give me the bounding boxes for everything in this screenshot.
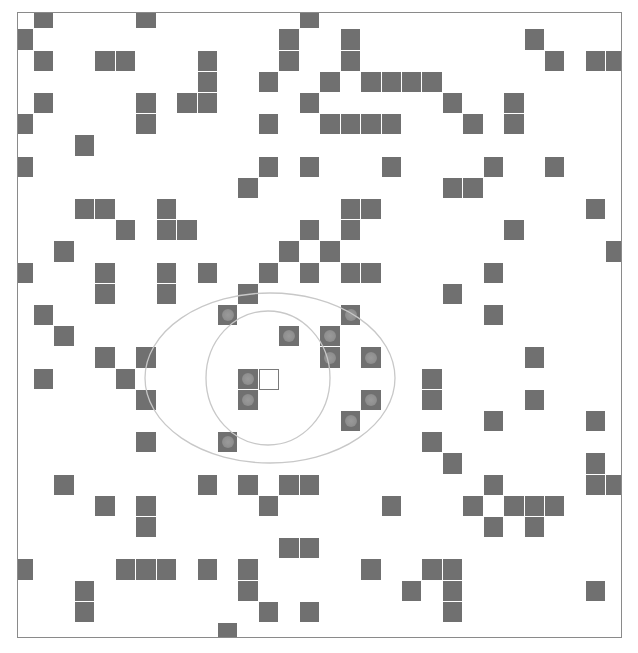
obstacle-cell [341,263,360,283]
obstacle-cell [361,559,381,580]
obstacle-cell [320,241,340,262]
obstacle-cell [136,496,156,516]
sensor-hit-dot-icon [365,394,377,406]
sensed-obstacle-cell [279,326,299,346]
obstacle-cell [382,157,401,177]
obstacle-cell [545,157,564,177]
obstacle-cell [504,114,524,134]
obstacle-cell [95,199,115,219]
obstacle-cell [463,114,483,134]
obstacle-cell [300,12,319,28]
obstacle-cell [422,432,442,452]
obstacle-cell [279,29,299,50]
sensed-obstacle-cell [218,305,237,325]
obstacle-cell [238,475,258,495]
obstacle-cell [259,72,278,92]
obstacle-cell [116,369,135,389]
sensed-obstacle-cell [341,411,360,431]
sensed-obstacle-cell [320,347,340,368]
obstacle-cell [75,602,94,622]
obstacle-cell [586,199,605,219]
sensor-hit-dot-icon [242,394,254,406]
cell-layer [17,12,622,638]
obstacle-cell [259,496,278,516]
sensed-obstacle-cell [361,347,381,368]
obstacle-cell [443,602,462,622]
obstacle-cell [198,475,217,495]
obstacle-cell [300,220,319,240]
obstacle-cell [238,581,258,601]
obstacle-cell [484,411,503,431]
sensed-obstacle-cell [341,305,360,325]
sensor-hit-dot-icon [222,309,234,321]
obstacle-cell [443,453,462,474]
obstacle-cell [361,199,381,219]
obstacle-cell [606,475,622,495]
obstacle-cell [116,220,135,240]
obstacle-cell [157,284,176,304]
obstacle-cell [341,29,360,50]
obstacle-cell [463,178,483,198]
obstacle-cell [443,581,462,601]
obstacle-cell [157,263,176,283]
obstacle-cell [136,93,156,113]
obstacle-cell [606,241,622,262]
obstacle-cell [504,220,524,240]
obstacle-cell [443,93,462,113]
obstacle-cell [198,51,217,71]
obstacle-cell [198,263,217,283]
obstacle-cell [75,581,94,601]
obstacle-cell [484,475,503,495]
obstacle-cell [382,496,401,516]
obstacle-cell [341,51,360,71]
sensed-obstacle-cell [218,432,237,452]
sensed-obstacle-cell [238,369,258,389]
sensor-hit-dot-icon [365,352,377,364]
obstacle-cell [525,347,544,368]
obstacle-cell [606,51,622,71]
obstacle-cell [34,369,53,389]
obstacle-cell [484,305,503,325]
grid-world [17,12,622,638]
obstacle-cell [136,114,156,134]
obstacle-cell [525,496,544,516]
obstacle-cell [17,157,33,177]
obstacle-cell [198,93,217,113]
obstacle-cell [422,369,442,389]
obstacle-cell [484,263,503,283]
obstacle-cell [402,72,421,92]
obstacle-cell [545,51,564,71]
obstacle-cell [586,411,605,431]
obstacle-cell [259,263,278,283]
obstacle-cell [17,29,33,50]
obstacle-cell [443,284,462,304]
obstacle-cell [218,623,237,638]
obstacle-cell [279,538,299,558]
obstacle-cell [361,72,381,92]
sensor-hit-dot-icon [345,309,357,321]
obstacle-cell [504,496,524,516]
obstacle-cell [95,263,115,283]
obstacle-cell [116,559,135,580]
obstacle-cell [177,220,197,240]
obstacle-cell [95,51,115,71]
obstacle-cell [116,51,135,71]
obstacle-cell [136,432,156,452]
obstacle-cell [136,390,156,410]
obstacle-cell [422,390,442,410]
obstacle-cell [279,475,299,495]
agent-cell [259,369,279,390]
obstacle-cell [361,114,381,134]
obstacle-cell [361,263,381,283]
obstacle-cell [177,93,197,113]
obstacle-cell [259,114,278,134]
obstacle-cell [34,305,53,325]
obstacle-cell [17,114,33,134]
obstacle-cell [34,51,53,71]
obstacle-cell [136,347,156,368]
obstacle-cell [279,241,299,262]
obstacle-cell [157,559,176,580]
obstacle-cell [545,496,564,516]
obstacle-cell [157,199,176,219]
obstacle-cell [17,263,33,283]
